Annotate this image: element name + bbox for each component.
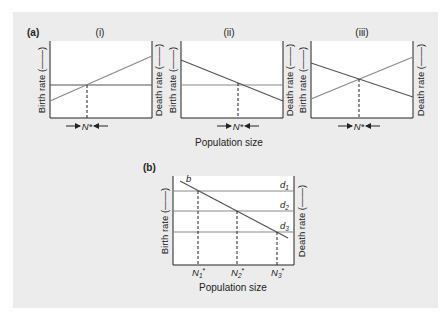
subpanel-label-i: (i): [96, 27, 105, 38]
plot-area: [50, 41, 152, 118]
b-label: b: [186, 173, 191, 184]
n2-star-label: N2*: [231, 267, 245, 279]
panel-a-label: (a): [27, 27, 39, 38]
x-axis-label: Population size: [195, 137, 263, 148]
n3-star-label: N3*: [271, 267, 285, 279]
chart-a-ii: (ii) Birth rate (——) N* Population size: [167, 27, 283, 148]
x-axis-label: Population size: [199, 282, 267, 293]
y-right-label: Death rate (——): [284, 44, 295, 116]
figure-canvas: (a) (i) Birth rate (——) N* Death rate (—…: [0, 0, 446, 319]
n-star-label: N*: [233, 121, 244, 132]
subpanel-label-iii: (iii): [355, 27, 368, 38]
chart-a-i: (i) Birth rate (——) N*: [36, 27, 152, 132]
y-left-label: Birth rate (——): [159, 188, 170, 255]
y-right-label: Death rate (——): [153, 44, 164, 116]
n-star-label: N*: [82, 121, 93, 132]
y-left-label: Birth rate (——): [297, 47, 308, 114]
y-left-label: Birth rate (——): [167, 47, 178, 114]
chart-b: (b) b d1 d2 d3 N1* N2* N3* Birth rate (—…: [143, 162, 307, 293]
n-star-label: N*: [354, 121, 365, 132]
subpanel-label-ii: (ii): [223, 27, 234, 38]
y-right-label: Death rate (——): [415, 44, 426, 116]
y-right-label: Death rate (——): [296, 185, 307, 257]
chart-a-iii: (iii) Birth rate (——) Death rate (——) N*: [297, 27, 426, 132]
y-left-label: Birth rate (——): [36, 47, 47, 114]
panel-b-label: (b): [143, 162, 156, 173]
n1-star-label: N1*: [192, 267, 206, 279]
